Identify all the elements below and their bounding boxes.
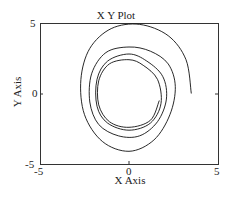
axes-box bbox=[41, 24, 219, 165]
trajectory-line bbox=[81, 24, 192, 151]
plot-area bbox=[0, 0, 232, 197]
